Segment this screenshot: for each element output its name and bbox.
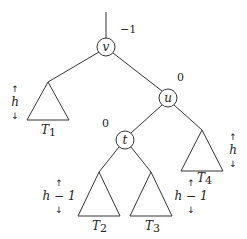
subtree-t3-triangle (130, 172, 172, 216)
subtree-t2-label: T2 (92, 219, 107, 235)
subtree-t4-label: T4 (197, 171, 212, 187)
arrow-down-icon: ↓ (55, 205, 63, 215)
node-v-label: v (103, 40, 110, 54)
height-indicator-t2: ↑ h − 1 ↓ (42, 178, 75, 215)
subtree-t1-triangle (27, 82, 69, 120)
node-t: t (116, 131, 134, 149)
svg-text:h − 1: h − 1 (42, 189, 75, 203)
height-indicator-t4: ↑ h ↓ (229, 132, 237, 169)
node-u-label: u (164, 91, 172, 105)
subtree-t2-triangle (78, 172, 120, 216)
arrow-up-icon: ↑ (55, 178, 63, 188)
node-v-balance: −1 (120, 23, 136, 36)
arrow-up-icon: ↑ (187, 178, 195, 188)
node-t-label: t (123, 133, 128, 147)
subtree-t3-label: T3 (145, 219, 160, 235)
node-t-balance: 0 (102, 117, 109, 130)
svg-text:h: h (11, 95, 19, 109)
edge-t-t3 (131, 147, 151, 172)
edge-u-t4 (174, 105, 202, 130)
edge-t-t2 (99, 147, 119, 172)
arrow-down-icon: ↓ (229, 159, 237, 169)
arrow-down-icon: ↓ (187, 205, 195, 215)
arrow-up-icon: ↑ (229, 132, 237, 142)
avl-tree-diagram: v −1 u 0 t 0 T1 T2 T3 T4 ↑ h ↓ ↑ h − 1 ↓… (0, 0, 247, 239)
subtree-t1-label: T1 (41, 123, 56, 139)
node-v: v (97, 38, 115, 56)
edge-u-t (131, 105, 162, 133)
subtree-t4-triangle (181, 130, 223, 171)
edge-v-u (113, 53, 162, 91)
svg-text:h − 1: h − 1 (174, 189, 207, 203)
node-u: u (159, 89, 177, 107)
node-u-balance: 0 (177, 71, 184, 84)
arrow-down-icon: ↓ (11, 111, 19, 121)
height-indicator-t1: ↑ h ↓ (11, 84, 19, 121)
svg-text:h: h (229, 143, 237, 157)
arrow-up-icon: ↑ (11, 84, 19, 94)
edge-v-t1 (48, 52, 99, 82)
